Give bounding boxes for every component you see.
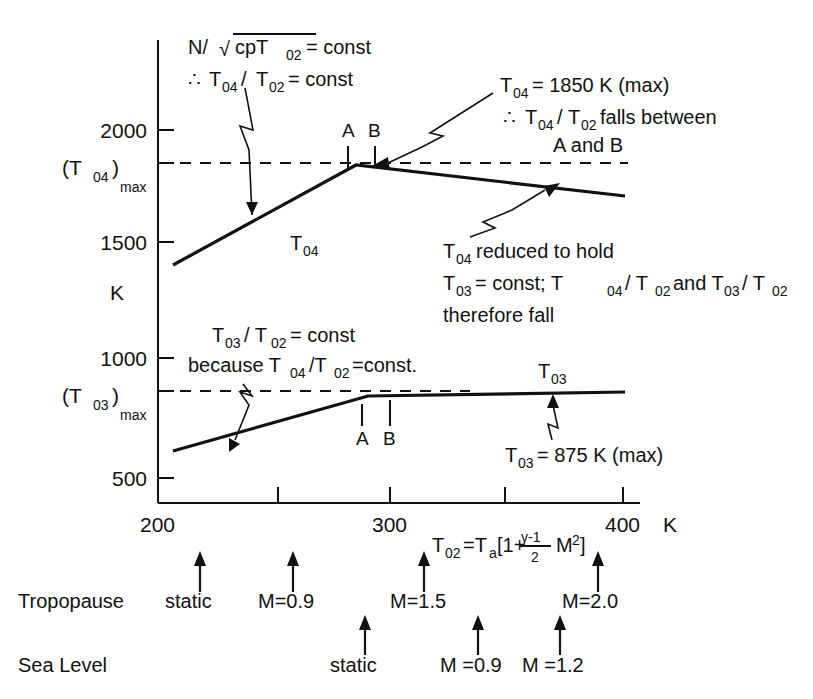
- topright-line2-post: falls between: [600, 106, 717, 128]
- tropopause-arrow-0: [194, 551, 206, 592]
- y-tick-label-500: 500: [112, 467, 147, 490]
- midright-line2-t1: T: [443, 272, 455, 294]
- sealevel-item-0-label: static: [330, 654, 377, 676]
- t03max-close: ): [112, 384, 119, 407]
- topright-line2-t2-sub: 02: [581, 117, 597, 133]
- lowerleft-line1-post: = const: [290, 324, 355, 346]
- annotation-t03-max-note: T 03 = 875 K (max): [505, 444, 663, 471]
- lower-marker-b-label: B: [383, 428, 396, 449]
- lowerleft-line1-t1: T: [212, 324, 224, 346]
- t03max-note-t: T: [505, 444, 517, 466]
- leader-topleft-arrowhead: [246, 202, 258, 215]
- t03-curve-label: T 03: [538, 360, 567, 387]
- sealevel-arrow-2: [554, 615, 566, 655]
- annotation-mid-right: T 04 reduced to hold T 03 = const; T 04 …: [443, 240, 788, 326]
- tropopause-arrows: [194, 551, 604, 592]
- leader-topright-to-peak: [372, 93, 493, 170]
- topright-line2-t2: T: [568, 106, 580, 128]
- y-tick-label-1000: 1000: [100, 347, 147, 370]
- t03-label-sub: 03: [551, 371, 567, 387]
- topleft-line1-radical: √: [219, 38, 230, 60]
- midright-line2-slash2: / T: [742, 272, 765, 294]
- lowerleft-line1-t1-sub: 03: [225, 335, 241, 351]
- equation-lhs-sub: 02: [445, 545, 461, 561]
- t04-curve-label: T 04: [290, 232, 319, 259]
- midright-line2-t5-sub: 02: [772, 283, 788, 299]
- t03max-open: (T: [62, 384, 82, 407]
- x-axis-equation: T 02 =T a [1+ γ-1 2 M 2 ]: [432, 529, 586, 565]
- equation-mach-sup: 2: [572, 532, 580, 548]
- tropopause-arrow-1: [287, 551, 299, 592]
- t04max-sub: 04: [93, 169, 109, 185]
- annotation-lower-left: T 03 / T 02 = const because T 04 /T 02 =…: [188, 324, 417, 381]
- sealevel-row: Sea Level static M =0.9 M =1.2: [18, 654, 584, 676]
- x-tick-label-400: 400: [605, 513, 640, 536]
- annotation-top-left: N/ √ cpT 02 = const ∴ T 04 / T 02 = cons…: [188, 36, 371, 95]
- topleft-line1-pre: N/: [188, 36, 208, 58]
- y-ticks-group: [158, 130, 174, 478]
- topright-line1-post: = 1850 K (max): [532, 74, 669, 96]
- sealevel-row-label: Sea Level: [18, 654, 107, 676]
- lowerleft-line2-pre: because T: [188, 354, 281, 376]
- topright-line2-slash: /: [557, 106, 563, 128]
- t03max-note-post: = 875 K (max): [537, 444, 663, 466]
- lowerleft-line2-t2-sub: 02: [334, 365, 350, 381]
- y-axis-unit-label: K: [110, 281, 124, 304]
- topright-line1-t: T: [500, 74, 512, 96]
- topleft-line1-radicand-sub: 02: [286, 47, 302, 63]
- midright-line2-and: and T: [673, 272, 724, 294]
- lowerleft-line1-slash: / T: [244, 324, 267, 346]
- sealevel-arrow-0: [359, 615, 371, 655]
- lower-marker-a-label: A: [356, 428, 369, 449]
- x-ticks-group: [158, 487, 623, 503]
- lowerleft-line1-t2-sub: 02: [271, 335, 287, 351]
- equation-bracket-close: ]: [580, 534, 586, 556]
- x-axis-unit-label: K: [663, 513, 677, 536]
- tropopause-item-0-label: static: [165, 590, 212, 612]
- midright-line1-sub: 04: [456, 251, 472, 267]
- leader-topleft-to-t04: [240, 88, 258, 215]
- topleft-line1-post: = const: [306, 36, 371, 58]
- upper-marker-a-label: A: [342, 120, 355, 141]
- t03max-note-sub: 03: [518, 455, 534, 471]
- topright-line2-t1-sub: 04: [538, 117, 554, 133]
- topleft-line2-slash: /: [241, 68, 247, 90]
- tropopause-row-label: Tropopause: [18, 590, 124, 612]
- topleft-line2-t1: T: [209, 68, 221, 90]
- y-tick-label-t03max: (T 03 ) max: [62, 384, 146, 423]
- lowerleft-line2-slash: /T: [309, 354, 327, 376]
- y-tick-label-1500: 1500: [100, 231, 147, 254]
- midright-line1-t: T: [443, 240, 455, 262]
- topleft-line2-t2: T: [256, 68, 268, 90]
- t03max-max: max: [120, 407, 146, 423]
- tropopause-row: Tropopause static M=0.9 M=1.5 M=2.0: [18, 590, 618, 612]
- sealevel-arrow-1: [472, 615, 484, 655]
- t04max-open: (T: [62, 156, 82, 179]
- topleft-line2-therefore: ∴: [188, 68, 201, 90]
- t04max-close: ): [112, 156, 119, 179]
- leader-midright-to-t04-fall: [470, 183, 560, 237]
- topright-line1-sub: 04: [513, 85, 529, 101]
- x-tick-label-200: 200: [140, 513, 175, 536]
- midright-line1-post: reduced to hold: [476, 240, 614, 262]
- t03-label-t: T: [538, 360, 550, 382]
- midright-line2-slash1: / T: [625, 272, 648, 294]
- equation-lhs: T: [432, 534, 444, 556]
- tropopause-arrow-3: [592, 551, 604, 592]
- annotation-top-right: T 04 = 1850 K (max) ∴ T 04 / T 02 falls …: [500, 74, 717, 156]
- sealevel-item-1-label: M =0.9: [440, 654, 502, 676]
- midright-line2-mid: = const; T: [475, 272, 563, 294]
- tropopause-item-2-label: M=1.5: [390, 590, 446, 612]
- t03max-sub: 03: [93, 397, 109, 413]
- topleft-line2-post: = const: [288, 68, 353, 90]
- tropopause-arrow-2: [418, 551, 430, 592]
- leader-t03max-arrowhead: [547, 394, 559, 408]
- equation-ta-sub: a: [489, 545, 497, 561]
- upper-marker-b-label: B: [368, 120, 381, 141]
- tropopause-item-3-label: M=2.0: [562, 590, 618, 612]
- leader-lowerleft-arrowhead: [229, 438, 240, 452]
- leader-lowerleft-to-t03: [229, 384, 252, 452]
- y-tick-label-2000: 2000: [100, 119, 147, 142]
- sealevel-arrows: [359, 615, 566, 655]
- leader-midright-arrowhead: [544, 183, 560, 197]
